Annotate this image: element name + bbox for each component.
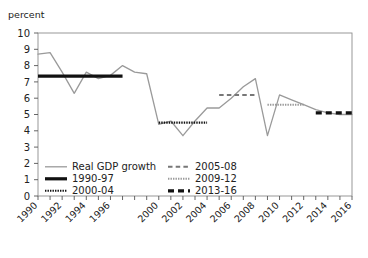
legend-label: 2013-16	[195, 185, 237, 196]
y-axis-tick-label: 4	[24, 125, 30, 136]
legend-label: 2000-04	[72, 185, 114, 196]
legend-label: 1990-97	[72, 173, 114, 184]
gdp-growth-chart: percent 012345678910 1990199219941996200…	[0, 0, 368, 258]
legend-label: Real GDP growth	[72, 161, 156, 172]
y-axis-tick-label: 9	[24, 44, 30, 55]
y-axis-tick-label: 2	[24, 158, 30, 169]
y-axis-tick-label: 0	[24, 191, 30, 202]
y-axis-tick-label: 3	[24, 142, 30, 153]
y-axis-tick-label: 6	[24, 93, 30, 104]
legend-label: 2005-08	[195, 161, 237, 172]
y-axis-tick-label: 7	[24, 77, 30, 88]
y-axis-unit-label: percent	[8, 9, 45, 20]
y-axis-tick-label: 10	[17, 28, 30, 39]
y-axis-tick-label: 8	[24, 60, 30, 71]
legend-label: 2009-12	[195, 173, 237, 184]
chart-container: percent 012345678910 1990199219941996200…	[0, 0, 368, 258]
y-axis-tick-label: 1	[24, 174, 30, 185]
y-axis-tick-label: 5	[24, 109, 30, 120]
